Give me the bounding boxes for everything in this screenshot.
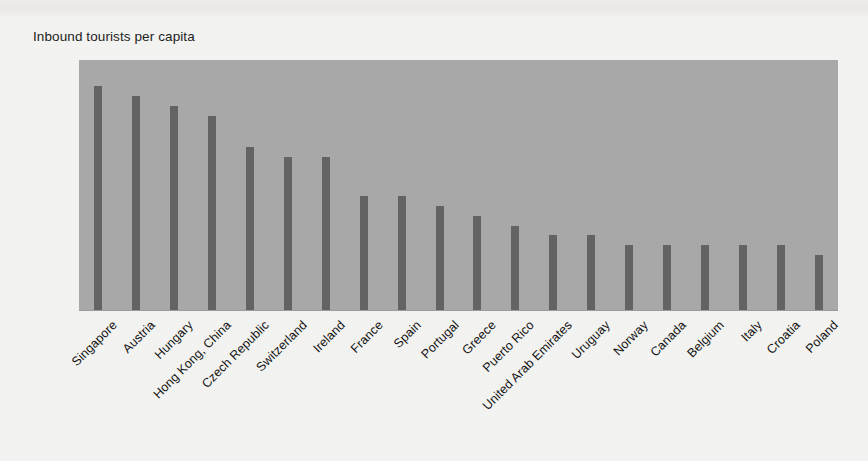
x-tick-label: Belgium	[685, 318, 727, 360]
bar	[587, 235, 595, 310]
bars-layer	[79, 60, 838, 310]
bar	[132, 96, 140, 310]
x-tick-label: Norway	[611, 318, 651, 358]
x-tick-label: Portugal	[418, 318, 461, 361]
x-tick-label: Poland	[803, 318, 841, 356]
bar	[511, 226, 519, 310]
bar	[322, 157, 330, 310]
bar	[625, 245, 633, 310]
bar	[777, 245, 785, 310]
x-tick-label: Czech Republic	[199, 318, 272, 391]
bar	[208, 116, 216, 310]
x-tick-label: Uruguay	[569, 318, 613, 362]
x-tick-label: Croatia	[764, 318, 803, 357]
bar	[436, 206, 444, 310]
x-tick-label: France	[348, 318, 386, 356]
bar	[473, 216, 481, 310]
bar	[663, 245, 671, 310]
x-axis: SingaporeAustriaHungaryHong Kong, ChinaC…	[0, 310, 868, 460]
bar	[701, 245, 709, 310]
bar	[284, 157, 292, 310]
x-tick-label: Spain	[391, 318, 424, 351]
x-tick-label: Ireland	[310, 318, 347, 355]
bar	[398, 196, 406, 310]
plot-area	[79, 60, 838, 310]
bar	[815, 255, 823, 310]
bar	[360, 196, 368, 310]
bar	[549, 235, 557, 310]
x-tick-label: Italy	[739, 318, 765, 344]
bar	[246, 147, 254, 310]
x-tick-label: Canada	[648, 318, 689, 359]
bar	[170, 106, 178, 310]
x-tick-label: Singapore	[69, 318, 120, 369]
bar	[94, 86, 102, 310]
bar	[739, 245, 747, 310]
bar-chart-figure: Inbound tourists per capita 00.51.01.52.…	[0, 0, 868, 461]
